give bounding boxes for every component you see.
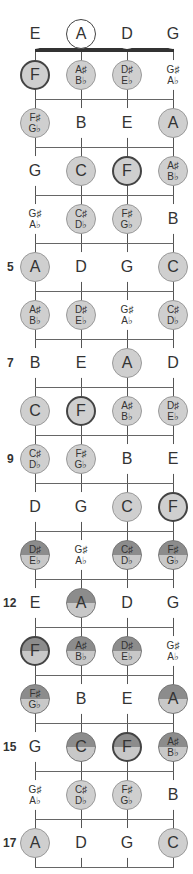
fret-line xyxy=(35,483,174,484)
fret-line xyxy=(35,339,174,340)
note-label: G xyxy=(121,835,133,851)
note-label: B xyxy=(122,451,133,467)
note-label: D xyxy=(29,499,41,515)
note-label: D♯ xyxy=(167,401,179,411)
note-marker: G♯A♭ xyxy=(20,204,50,234)
note-label: G xyxy=(167,26,179,42)
note-label: C♯ xyxy=(29,449,41,459)
note-label: A♯ xyxy=(75,65,87,75)
note-marker: C xyxy=(66,156,96,186)
note-marker: D♯E♭ xyxy=(112,60,142,90)
note-label: C♯ xyxy=(121,545,133,555)
note-label: C♯ xyxy=(167,305,179,315)
note-marker: A xyxy=(66,19,96,49)
note-enharmonic-label: A♭ xyxy=(167,652,179,662)
note-label: G xyxy=(29,739,41,755)
note-marker: E xyxy=(112,108,142,138)
note-label: F xyxy=(122,739,132,755)
note-label: A♯ xyxy=(167,737,179,747)
note-marker: D xyxy=(158,348,188,378)
note-enharmonic-label: E♭ xyxy=(29,556,41,566)
note-label: G♯ xyxy=(167,641,180,651)
note-enharmonic-label: B♭ xyxy=(75,652,87,662)
note-enharmonic-label: D♭ xyxy=(29,460,41,470)
note-label: G♯ xyxy=(75,545,88,555)
note-marker: C♯D♭ xyxy=(66,204,96,234)
nut xyxy=(35,48,174,52)
fret-line xyxy=(35,291,174,292)
fret-line xyxy=(35,867,174,868)
note-label: B xyxy=(30,355,41,371)
note-label: F xyxy=(30,643,40,659)
fret-line xyxy=(35,627,174,628)
note-marker: F xyxy=(112,732,142,762)
note-marker: D♯E♭ xyxy=(20,540,50,570)
note-label: A xyxy=(30,259,41,275)
note-marker: B xyxy=(158,780,188,810)
note-marker: C♯D♭ xyxy=(66,780,96,810)
note-enharmonic-label: B♭ xyxy=(75,76,87,86)
note-marker: D xyxy=(20,492,50,522)
note-label: G♯ xyxy=(167,65,180,75)
note-marker: A xyxy=(20,252,50,282)
note-label: F xyxy=(76,403,86,419)
note-label: D♯ xyxy=(121,65,133,75)
note-marker: F xyxy=(158,492,188,522)
note-label: G♯ xyxy=(29,785,42,795)
fret-number-label: 15 xyxy=(3,740,16,754)
note-label: E xyxy=(122,115,133,131)
note-marker: B xyxy=(158,204,188,234)
note-label: D xyxy=(121,26,133,42)
note-marker: G xyxy=(158,19,188,49)
note-label: E xyxy=(76,355,87,371)
note-label: A xyxy=(76,595,87,611)
note-marker: C xyxy=(20,396,50,426)
note-label: D♯ xyxy=(29,545,41,555)
note-label: D xyxy=(75,835,87,851)
note-marker: G♯A♭ xyxy=(158,636,188,666)
note-label: A xyxy=(168,115,179,131)
note-label: A xyxy=(122,355,133,371)
note-label: E xyxy=(122,691,133,707)
fret-line xyxy=(35,435,174,436)
note-marker: D xyxy=(66,828,96,858)
note-marker: G xyxy=(112,828,142,858)
note-label: A♯ xyxy=(75,641,87,651)
fret-line xyxy=(35,579,174,580)
note-marker: C xyxy=(158,828,188,858)
note-label: G xyxy=(121,259,133,275)
note-label: C♯ xyxy=(75,785,87,795)
note-label: B xyxy=(168,787,179,803)
note-marker: E xyxy=(112,684,142,714)
note-marker: D xyxy=(112,19,142,49)
note-marker: G♯A♭ xyxy=(158,60,188,90)
note-marker: G♯A♭ xyxy=(20,780,50,810)
note-enharmonic-label: G♭ xyxy=(75,460,88,470)
note-marker: A xyxy=(112,348,142,378)
note-marker: A♯B♭ xyxy=(66,60,96,90)
fretboard-diagram: EADGFA♯B♭D♯E♭G♯A♭F♯G♭BEAGCFA♯B♭G♯A♭C♯D♭F… xyxy=(0,0,193,874)
note-marker: F♯G♭ xyxy=(20,684,50,714)
note-marker: G♯A♭ xyxy=(112,300,142,330)
note-marker: D♯E♭ xyxy=(112,636,142,666)
note-marker: F♯G♭ xyxy=(66,444,96,474)
note-marker: C xyxy=(112,492,142,522)
note-marker: G xyxy=(66,492,96,522)
note-marker: A♯B♭ xyxy=(112,396,142,426)
note-marker: D xyxy=(112,588,142,618)
note-enharmonic-label: B♭ xyxy=(167,748,179,758)
note-label: B xyxy=(76,115,87,131)
note-marker: C xyxy=(158,252,188,282)
note-enharmonic-label: E♭ xyxy=(75,316,87,326)
note-marker: F♯G♭ xyxy=(20,108,50,138)
note-label: G♯ xyxy=(121,305,134,315)
note-enharmonic-label: E♭ xyxy=(121,76,133,86)
note-label: C xyxy=(167,835,179,851)
note-label: A♯ xyxy=(29,305,41,315)
note-marker: D♯E♭ xyxy=(158,396,188,426)
note-marker: A♯B♭ xyxy=(158,156,188,186)
note-enharmonic-label: A♭ xyxy=(167,76,179,86)
note-label: F xyxy=(122,163,132,179)
note-label: A xyxy=(76,26,87,42)
note-marker: A xyxy=(158,684,188,714)
